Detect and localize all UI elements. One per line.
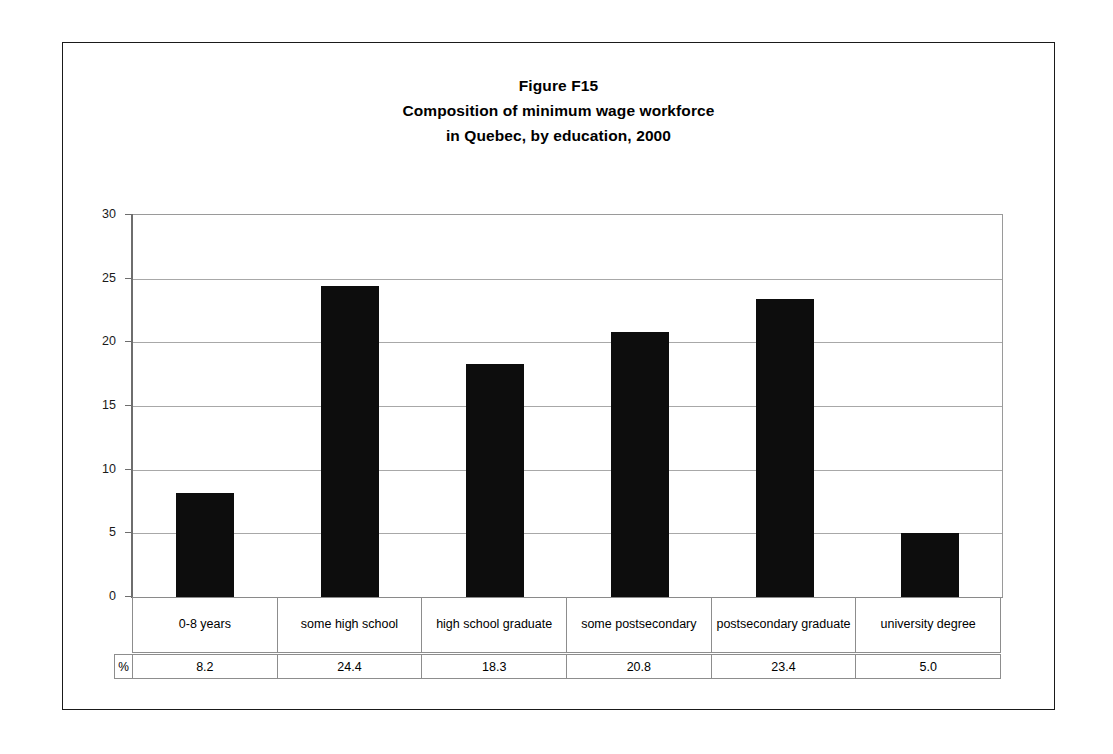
category-label: some high school [278,597,423,652]
plot-area [132,214,1003,598]
y-tick-label-5: 5 [76,526,116,538]
gridline-10 [133,470,1002,471]
value-table-row: %8.224.418.320.823.45.0 [114,654,1001,679]
y-tick-label-15: 15 [76,399,116,411]
y-tick-mark-20 [125,341,131,342]
bar [756,299,814,597]
bar [466,364,524,597]
figure-frame: Figure F15 Composition of minimum wage w… [62,42,1055,710]
y-tick-mark-15 [125,405,131,406]
y-axis-line [131,214,133,598]
category-label: university degree [856,597,1000,652]
value-cell: 8.2 [133,655,278,678]
category-label: some postsecondary [567,597,712,652]
value-cell: 20.8 [567,655,712,678]
y-tick-label-20: 20 [76,335,116,347]
y-tick-mark-5 [125,532,131,533]
category-label-row: 0-8 yearssome high schoolhigh school gra… [132,597,1001,653]
bar [176,493,234,597]
category-label: postsecondary graduate [712,597,857,652]
category-label: high school graduate [422,597,567,652]
bar [901,533,959,597]
y-tick-label-25: 25 [76,272,116,284]
value-cell: 18.3 [422,655,567,678]
gridline-25 [133,279,1002,280]
y-tick-mark-25 [125,278,131,279]
unit-label-cell: % [115,655,133,678]
gridline-15 [133,406,1002,407]
y-tick-label-30: 30 [76,208,116,220]
value-cell: 5.0 [856,655,1000,678]
bar [611,332,669,597]
y-tick-label-10: 10 [76,463,116,475]
y-tick-label-0: 0 [76,590,116,602]
bar-chart: 051015202530 0-8 yearssome high schoolhi… [63,43,1056,711]
value-cell: 23.4 [712,655,857,678]
y-tick-mark-30 [125,214,131,215]
gridline-5 [133,533,1002,534]
y-tick-mark-10 [125,469,131,470]
y-tick-mark-0 [125,596,131,597]
value-cell: 24.4 [278,655,423,678]
bar [321,286,379,597]
category-label: 0-8 years [133,597,278,652]
gridline-20 [133,342,1002,343]
